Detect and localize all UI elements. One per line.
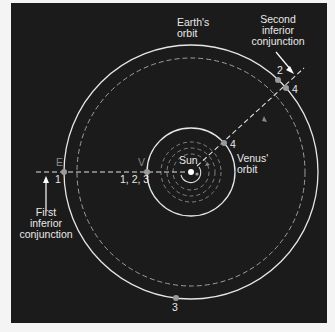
sun-label: Sun	[179, 155, 198, 166]
sun-icon	[188, 169, 194, 175]
venus-direction-arrow	[205, 162, 210, 166]
orbit-direction-arrow	[262, 116, 267, 122]
earths-orbit-label: Earth's orbit	[177, 17, 209, 39]
orbit-diagram	[0, 0, 335, 332]
venus-pos-123-label: 1, 2, 3	[120, 174, 149, 185]
earth-pos-3-label: 3	[172, 302, 178, 313]
venus-marker-label: V	[138, 157, 145, 168]
earth-point-1	[61, 169, 67, 175]
second-conjunction-arrowhead	[286, 66, 294, 74]
venus-small-dot	[195, 172, 198, 175]
venus-point-4	[221, 140, 227, 146]
earth-point-4	[283, 85, 289, 91]
second-inferior-conjunction-label: Second inferior conjunction	[242, 14, 314, 47]
venus-pos-4-label: 4	[230, 139, 236, 150]
earth-point-2	[275, 77, 281, 83]
earth-marker-label: E	[56, 157, 63, 168]
earth-pos-2-label: 2	[277, 65, 283, 76]
earth-pos-4-label: 4	[292, 84, 298, 95]
first-inferior-conjunction-label: First inferior conjunction	[18, 207, 74, 240]
venus-orbit-label: Venus' orbit	[237, 153, 268, 175]
first-conjunction-arrowhead	[43, 176, 49, 183]
earth-pos-1-label: 1	[55, 174, 61, 185]
